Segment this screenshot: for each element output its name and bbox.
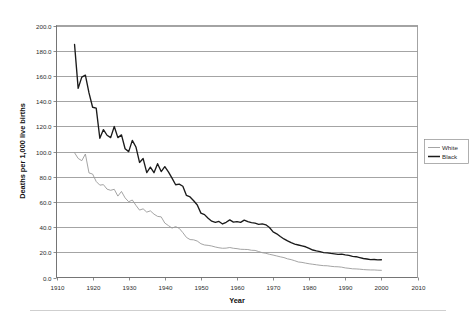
y-tick-label: 140.0 bbox=[36, 98, 52, 105]
y-tick-label: 20.0 bbox=[39, 249, 52, 256]
x-tick-label: 2000 bbox=[375, 284, 389, 291]
x-tick-label: 1960 bbox=[231, 284, 245, 291]
y-tick-label: 200.0 bbox=[36, 23, 52, 30]
y-tick-label: 120.0 bbox=[36, 123, 52, 130]
x-tick-label: 1950 bbox=[195, 284, 209, 291]
y-tick-label: 160.0 bbox=[36, 73, 52, 80]
x-tick-label: 1970 bbox=[267, 284, 281, 291]
y-tick-label: 0.0 bbox=[43, 275, 52, 282]
chart-legend[interactable]: White Black bbox=[425, 140, 469, 164]
x-axis-title: Year bbox=[229, 296, 245, 305]
y-tick-label: 40.0 bbox=[39, 224, 52, 231]
x-tick-label: 1910 bbox=[51, 284, 65, 291]
y-axis-title: Deaths per 1,000 live births bbox=[18, 103, 27, 199]
y-tick-label: 60.0 bbox=[39, 199, 52, 206]
x-tick-label: 1920 bbox=[87, 284, 101, 291]
chart-figure: 0.020.040.060.080.0100.0120.0140.0160.01… bbox=[0, 0, 476, 319]
chart-background bbox=[0, 0, 476, 319]
y-tick-label: 180.0 bbox=[36, 48, 52, 55]
x-tick-label: 1990 bbox=[339, 284, 353, 291]
x-tick-label: 1980 bbox=[303, 284, 317, 291]
x-tick-label: 1940 bbox=[159, 284, 173, 291]
y-tick-label: 100.0 bbox=[36, 149, 52, 156]
x-tick-label: 2010 bbox=[412, 284, 426, 291]
legend-label-black: Black bbox=[442, 153, 458, 160]
x-tick-label: 1930 bbox=[123, 284, 137, 291]
legend-label-white: White bbox=[442, 144, 458, 151]
y-tick-label: 80.0 bbox=[39, 174, 52, 181]
infant-mortality-line-chart: 0.020.040.060.080.0100.0120.0140.0160.01… bbox=[0, 0, 476, 319]
